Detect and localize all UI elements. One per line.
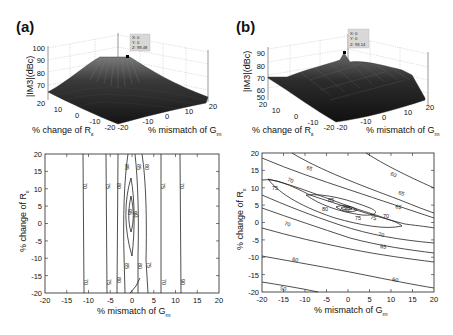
svg-text:75: 75 <box>146 262 152 268</box>
svg-text:70: 70 <box>83 279 89 285</box>
svg-text:70: 70 <box>82 183 88 189</box>
svg-text:70: 70 <box>378 231 385 238</box>
svg-text:10: 10 <box>34 185 42 194</box>
svg-text:-15: -15 <box>278 295 289 304</box>
svg-text:90: 90 <box>180 279 186 285</box>
svg-text:85: 85 <box>124 164 130 170</box>
svg-text:10: 10 <box>404 108 412 117</box>
svg-text:10: 10 <box>54 105 62 114</box>
svg-text:80: 80 <box>137 263 143 269</box>
panel-a-z-label: |IM3|(dBc) <box>25 56 35 97</box>
svg-text:20: 20 <box>259 100 267 109</box>
svg-text:65: 65 <box>380 243 387 250</box>
svg-text:20: 20 <box>215 296 223 305</box>
svg-text:-10: -10 <box>31 254 42 263</box>
svg-text:90: 90 <box>344 205 350 211</box>
svg-text:80: 80 <box>144 164 150 170</box>
svg-text:15: 15 <box>193 296 201 305</box>
panel-a-y-label: % change of Rε <box>32 125 94 137</box>
svg-text:85: 85 <box>328 197 334 203</box>
peak-marker <box>343 51 346 54</box>
svg-text:80: 80 <box>322 206 328 212</box>
svg-text:60: 60 <box>292 256 299 263</box>
svg-text:-10: -10 <box>90 117 101 126</box>
svg-text:10: 10 <box>185 107 193 116</box>
svg-text:-15: -15 <box>248 271 259 280</box>
panel-a-x-label: % mismatch of Gm <box>148 125 222 137</box>
svg-text:100: 100 <box>32 44 45 53</box>
panel-b-surface <box>268 53 425 122</box>
svg-text:-15: -15 <box>31 272 42 281</box>
svg-text:20: 20 <box>430 295 438 304</box>
panel-a-surface-plot: (a) <box>16 18 222 137</box>
datatip-z: Z: 99.48 <box>132 45 148 50</box>
svg-text:15: 15 <box>34 167 42 176</box>
svg-text:70: 70 <box>37 81 45 90</box>
svg-text:-15: -15 <box>61 296 72 305</box>
svg-text:-10: -10 <box>248 253 259 262</box>
svg-text:20: 20 <box>34 150 42 159</box>
svg-text:90: 90 <box>257 49 265 58</box>
panel-b-surface-plot: (b) <box>236 18 440 137</box>
panel-a-datatip: X: 0 Y: 0 Z: 99.48 <box>126 34 150 58</box>
svg-text:0: 0 <box>165 112 169 121</box>
panel-a-contour-y-label: % change of Rε <box>18 190 30 252</box>
svg-text:70: 70 <box>383 213 389 219</box>
panel-b-label: (b) <box>236 18 255 35</box>
svg-text:80: 80 <box>116 277 122 283</box>
svg-text:70: 70 <box>161 279 167 285</box>
panel-b-contour-y-label: % change of Rε <box>235 188 247 250</box>
svg-text:75: 75 <box>160 183 166 189</box>
svg-text:20: 20 <box>251 149 259 158</box>
svg-text:-10: -10 <box>83 296 94 305</box>
svg-text:5: 5 <box>38 202 42 211</box>
svg-text:-20: -20 <box>324 123 335 132</box>
svg-text:60: 60 <box>392 276 399 283</box>
panel-b-z-label: |IM3|(dBc) <box>242 51 252 92</box>
svg-text:5: 5 <box>255 201 259 210</box>
peak-marker <box>126 55 129 58</box>
svg-text:0: 0 <box>294 112 298 121</box>
svg-text:-5: -5 <box>323 295 330 304</box>
svg-text:5: 5 <box>152 296 156 305</box>
svg-text:75: 75 <box>370 214 377 221</box>
panel-b-contour-plot: 65 60 70 75 65 70 75 70 65 60 60 50 80 8… <box>235 149 438 317</box>
panel-a-label: (a) <box>16 18 34 35</box>
panel-a-contour-x-ticks: -20 -15 -10 -5 0 5 10 15 20 <box>40 296 224 305</box>
panel-b-y-label: % change of Rε <box>252 125 314 137</box>
svg-text:80: 80 <box>257 62 265 71</box>
svg-text:20: 20 <box>209 102 217 111</box>
svg-text:10: 10 <box>272 106 280 115</box>
panel-b-contour-x-ticks: -20 -15 -10 -5 0 5 10 15 20 <box>257 295 439 304</box>
svg-text:70: 70 <box>179 183 185 189</box>
svg-text:-20: -20 <box>257 295 268 304</box>
svg-text:-5: -5 <box>35 237 42 246</box>
svg-text:-20: -20 <box>40 296 51 305</box>
panel-b-datatip: X: 0 Y: 0 Z: 93.14 <box>343 29 369 54</box>
svg-text:0: 0 <box>382 113 386 122</box>
svg-text:10: 10 <box>171 296 179 305</box>
panel-b-z-ticks: 90 80 70 60 50 <box>257 49 265 102</box>
svg-text:80: 80 <box>37 69 45 78</box>
svg-text:5: 5 <box>367 295 371 304</box>
svg-text:-5: -5 <box>252 236 259 245</box>
svg-text:0: 0 <box>38 219 42 228</box>
svg-text:-20: -20 <box>118 123 129 132</box>
svg-text:95: 95 <box>127 209 133 215</box>
svg-text:-20: -20 <box>337 123 348 132</box>
svg-text:-10: -10 <box>300 295 311 304</box>
svg-text:20: 20 <box>426 103 434 112</box>
svg-text:-20: -20 <box>105 123 116 132</box>
panel-a-contour-y-ticks: 20 15 10 5 0 -5 -10 -15 -20 <box>31 150 42 298</box>
svg-text:0: 0 <box>130 296 134 305</box>
svg-text:75: 75 <box>355 215 361 221</box>
svg-text:85: 85 <box>136 164 142 170</box>
svg-text:15: 15 <box>408 295 416 304</box>
svg-text:75: 75 <box>105 183 111 189</box>
svg-text:85: 85 <box>124 263 130 269</box>
svg-text:10: 10 <box>251 184 259 193</box>
svg-text:-5: -5 <box>107 296 114 305</box>
panel-b-x-label: % mismatch of Gm <box>366 125 440 137</box>
svg-text:15: 15 <box>251 166 259 175</box>
panel-a-contour-frame <box>45 154 219 293</box>
